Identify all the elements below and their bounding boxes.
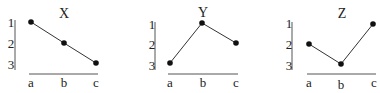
y-tick-label: 3 [286, 58, 293, 73]
data-line [309, 24, 373, 64]
x-tick-label: c [93, 75, 99, 90]
data-point [93, 60, 99, 66]
y-tick-label: 2 [286, 37, 293, 52]
data-point [306, 41, 312, 47]
data-point [28, 19, 34, 25]
y-tick-label: 3 [8, 57, 15, 72]
y-tick-label: 1 [149, 17, 156, 32]
diagram-canvas: X 1 2 3 a b c Y 1 2 3 a b c Z 1 2 3 a [0, 0, 380, 93]
panel-title: X [59, 6, 69, 21]
x-tick-label: c [233, 75, 239, 90]
data-point [370, 21, 376, 27]
panel-y: Y 1 2 3 a b c [149, 5, 239, 90]
x-tick-label: a [28, 75, 34, 90]
data-point [233, 40, 239, 46]
x-tick-label: b [338, 77, 345, 92]
panel-x: X 1 2 3 a b c [8, 6, 99, 90]
y-tick-label: 1 [8, 15, 15, 30]
y-tick-label: 2 [8, 36, 15, 51]
y-tick-label: 1 [286, 16, 293, 31]
data-point [338, 61, 344, 67]
y-tick-label: 2 [149, 37, 156, 52]
x-tick-label: b [200, 75, 207, 90]
x-tick-label: c [371, 75, 377, 90]
panel-title: Y [198, 5, 208, 20]
x-tick-label: a [306, 75, 312, 90]
data-point [61, 40, 67, 46]
y-tick-label: 3 [149, 58, 156, 73]
data-point [199, 20, 205, 26]
panel-z: Z 1 2 3 a b c [286, 6, 377, 92]
data-point [167, 60, 173, 66]
panel-title: Z [338, 6, 347, 21]
data-line [170, 23, 236, 63]
x-tick-label: a [167, 75, 173, 90]
x-tick-label: b [61, 75, 68, 90]
